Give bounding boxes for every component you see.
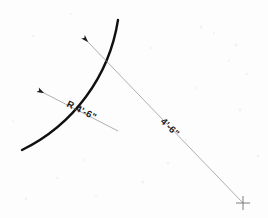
radius-length-label: 4'-6" (159, 116, 182, 139)
arc-radius-drawing: R 4'-6" 4'-6" (0, 0, 268, 218)
curved-wall-arc (22, 20, 118, 150)
technical-drawing-canvas: R 4'-6" 4'-6" (0, 0, 268, 218)
